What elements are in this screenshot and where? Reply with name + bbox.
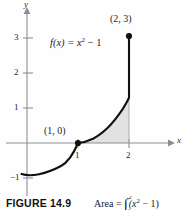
point-label-1-0: (1, 0) <box>44 126 66 136</box>
caption-integrand-rest: − 1) <box>140 198 159 209</box>
point-label-2-3: (2, 3) <box>110 14 132 24</box>
x-tick-label-2: 2 <box>126 151 131 160</box>
function-equation-lhs: f(x) = x <box>50 37 82 48</box>
figure-caption: FIGURE 14.9 Area =∫21(x2 − 1) <box>6 196 190 210</box>
x-tick-label-1: 1 <box>75 151 80 160</box>
function-equation-label: f(x) = x2 − 1 <box>50 38 102 49</box>
y-axis-label: y <box>24 0 28 9</box>
figure-caption-formula: Area =∫21(x2 − 1) <box>94 198 159 210</box>
plot-canvas <box>0 0 190 210</box>
function-equation-rest: − 1 <box>85 37 101 48</box>
shaded-area-region <box>78 98 129 143</box>
point-marker-2-3 <box>126 33 132 39</box>
x-axis-arrow <box>168 140 175 147</box>
point-marker-1-0 <box>75 140 81 146</box>
integral-lower-limit: 1 <box>128 209 131 210</box>
integral-upper-limit: 2 <box>129 196 132 200</box>
integral-sign-group: ∫21 <box>124 199 128 210</box>
figure-container: y x 3 2 1 −1 1 2 f(x) = x2 − 1 (2, 3) (1… <box>0 0 190 210</box>
y-tick-label-1: 1 <box>14 103 19 112</box>
x-axis-label: x <box>177 136 181 145</box>
figure-number-label: FIGURE 14.9 <box>6 197 71 209</box>
y-tick-label-2: 2 <box>14 68 19 77</box>
y-tick-label-neg1: −1 <box>10 173 20 182</box>
caption-area-prefix: Area = <box>94 198 122 209</box>
y-tick-label-3: 3 <box>14 33 19 42</box>
